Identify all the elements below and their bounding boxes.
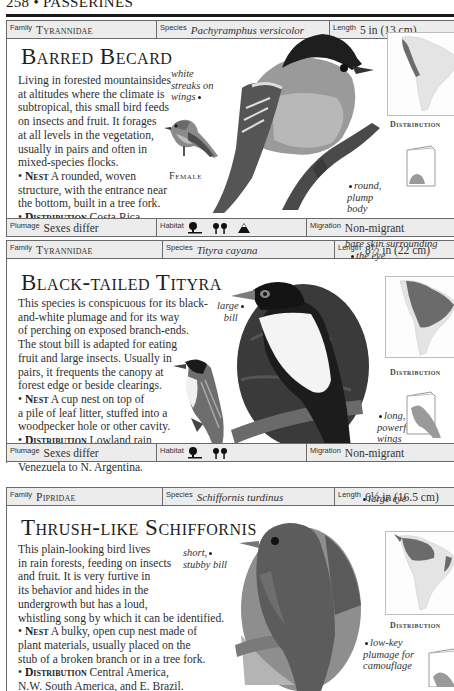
- annotation-text: large: [217, 300, 239, 311]
- info-bar-bottom: Plumage Sexes differ Habitat Migration N…: [7, 218, 454, 237]
- family-cell: Family Pipridae: [7, 488, 163, 505]
- annotation-line: camouflage: [363, 660, 414, 672]
- migration-label: Migration: [310, 221, 341, 230]
- species-title: Barred Becard: [21, 44, 172, 70]
- south-america-map-icon: [388, 33, 454, 115]
- page-header: 258 • PASSERINES: [6, 0, 133, 11]
- annotation-line: the eye: [345, 250, 438, 262]
- nest-text: A cup nest on top of: [48, 393, 144, 406]
- pointer-dot: [209, 552, 212, 555]
- annotation-stubby-bill: short, stubby bill: [183, 547, 227, 570]
- annotation-line: wings: [171, 91, 213, 103]
- species-label: Species: [166, 490, 193, 499]
- family-label: Family: [10, 23, 32, 32]
- woodland-icon: [212, 447, 228, 459]
- annotation-large-eye: large eye: [361, 493, 406, 505]
- nest-text: A bulky, open cup nest made of: [48, 625, 197, 638]
- annotation-text: round,: [354, 180, 381, 191]
- species-title: Thrush-like Schiffornis: [21, 515, 257, 541]
- migration-label: Migration: [310, 446, 341, 455]
- family-cell: Family Tyrannidae: [7, 21, 157, 38]
- migration-cell: Migration Non-migrant: [307, 219, 454, 236]
- description-line: and-white plumage and for its way: [18, 311, 208, 325]
- annotation-text: low-key: [370, 637, 403, 648]
- annotation-text: short,: [183, 547, 207, 558]
- description-line: Living in forested mountainsides: [18, 74, 171, 88]
- description-line: its behavior and hides in the: [18, 584, 246, 598]
- size-book-icon: [405, 144, 439, 188]
- annotation-line: bare skin surrounding: [345, 238, 438, 250]
- nest-text: plant materials, usually placed on the: [18, 639, 246, 653]
- distribution-line: • Distribution Central America,: [18, 666, 246, 680]
- nest-heading: Nest: [25, 625, 49, 638]
- plumage-label: Plumage: [10, 446, 40, 455]
- size-book-icon: [405, 390, 445, 440]
- entry-black-tailed-tityra: Family Tyrannidae Species Tityra cayana …: [6, 240, 454, 463]
- annotation-text: the eye: [356, 250, 385, 261]
- annotation-line: white: [171, 68, 213, 80]
- nest-line: • Nest A rounded, woven: [18, 170, 171, 184]
- distribution-map: [385, 531, 454, 615]
- distribution-heading: Distribution: [25, 666, 87, 679]
- species-cell: Species Tityra cayana: [163, 241, 335, 258]
- length-label: Length: [338, 490, 361, 499]
- description-line: and fruit. It is very furtive in: [18, 570, 246, 584]
- nest-line: • Nest A bulky, open cup nest made of: [18, 625, 246, 639]
- annotation-line: streaks on: [171, 80, 213, 92]
- annotation-round-body: round, plump body: [347, 180, 381, 215]
- female-bird-illustration: [173, 358, 229, 450]
- entry-thrush-like-schiffornis: Family Pipridae Species Schiffornis turd…: [6, 487, 454, 691]
- description-line: This species is conspicuous for its blac…: [18, 297, 208, 311]
- nest-text: stub of a broken branch or in a tree for…: [18, 653, 246, 667]
- nest-text: A rounded, woven: [48, 170, 136, 183]
- distribution-text: Central America,: [87, 666, 169, 679]
- species-label: Species: [160, 23, 187, 32]
- distribution-label: Distribution: [390, 621, 441, 630]
- annotation-text: wings: [171, 91, 196, 102]
- migration-value: Non-migrant: [345, 447, 404, 459]
- description-line: at all levels in the vegetation,: [18, 129, 171, 143]
- annotation-line: large: [217, 300, 246, 312]
- description-line: mixed-species flocks.: [18, 156, 171, 170]
- south-america-map-icon: [386, 277, 454, 357]
- annotation-bare-skin: bare skin surrounding the eye: [345, 238, 438, 261]
- plumage-cell: Plumage Sexes differ: [7, 444, 157, 461]
- annotation-white-streaks: white streaks on wings: [171, 68, 213, 103]
- distribution-label: Distribution: [390, 120, 441, 129]
- annotation-line: round,: [347, 180, 381, 192]
- pointer-dot: [241, 305, 244, 308]
- description-line: of perching on exposed branch-ends.: [18, 324, 208, 338]
- family-value: Pipridae: [36, 491, 76, 503]
- annotation-camouflage: low-key plumage for camouflage: [363, 637, 414, 672]
- size-book-icon: [427, 647, 454, 687]
- species-cell: Species Schiffornis turdinus: [163, 488, 335, 505]
- habitat-cell: Habitat: [157, 219, 307, 236]
- species-label: Species: [166, 243, 193, 252]
- description: Living in forested mountainsides at alti…: [18, 74, 171, 238]
- species-value: Schiffornis turdinus: [197, 491, 284, 503]
- pointer-dot: [349, 185, 352, 188]
- description-line: whistling song by which it can be identi…: [18, 612, 246, 626]
- south-america-map-icon: [386, 532, 454, 614]
- description-line: subtropical, this small bird feeds: [18, 101, 171, 115]
- annotation-line: plump: [347, 192, 381, 204]
- annotation-line: plumage for: [363, 649, 414, 661]
- description-line: undergrowth but has a loud,: [18, 598, 246, 612]
- plumage-value: Sexes differ: [44, 222, 99, 234]
- plumage-label: Plumage: [10, 221, 40, 230]
- nest-text: structure, with the entrance near: [18, 184, 171, 198]
- annotation-line: short,: [183, 547, 227, 559]
- forest-icon: [188, 447, 202, 459]
- pointer-dot: [365, 642, 368, 645]
- annotation-text: long,: [384, 410, 405, 421]
- habitat-label: Habitat: [160, 446, 184, 455]
- forest-icon: [188, 222, 202, 234]
- description-line: usually in pairs and often in: [18, 143, 171, 157]
- distribution-text: N.W. South America, and E. Brazil.: [18, 680, 246, 691]
- species-value: Tityra cayana: [197, 244, 258, 256]
- annotation-large-bill: large bill: [217, 300, 246, 323]
- distribution-text: Venezuela to N. Argentina.: [18, 461, 208, 475]
- nest-heading: Nest: [25, 393, 49, 406]
- female-label: Female: [169, 170, 202, 181]
- description-line: The stout bill is adapted for eating: [18, 338, 208, 352]
